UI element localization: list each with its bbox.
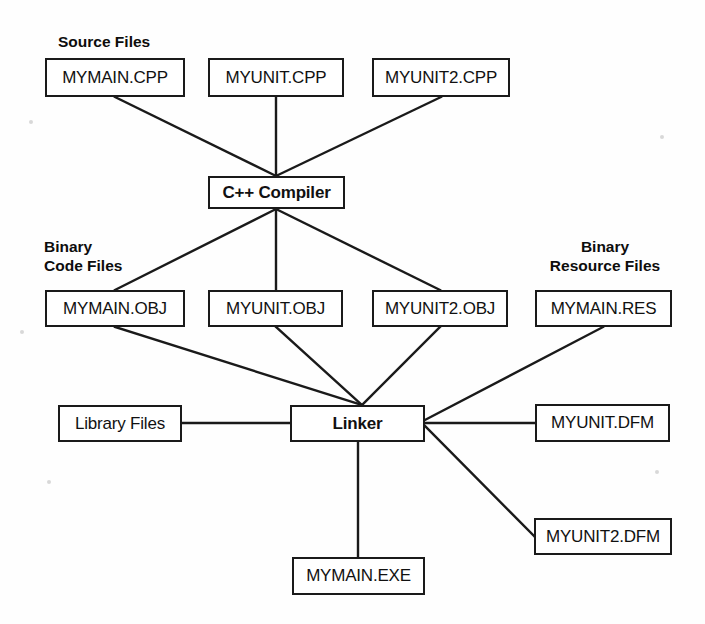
- node-label-myunit2-obj: MYUNIT2.OBJ: [385, 299, 495, 319]
- node-myunit-obj[interactable]: MYUNIT.OBJ: [208, 290, 343, 327]
- caption-binary-code-files: Binary Code Files: [44, 237, 164, 275]
- caption-source-files: Source Files: [58, 32, 208, 51]
- node-label-myunit-dfm: MYUNIT.DFM: [551, 413, 654, 433]
- node-label-mymain-exe: MYMAIN.EXE: [306, 566, 411, 586]
- scan-speck-0: [29, 120, 33, 124]
- node-linker[interactable]: Linker: [290, 405, 425, 442]
- node-myunit2-cpp[interactable]: MYUNIT2.CPP: [372, 58, 510, 97]
- scan-speck-3: [47, 480, 51, 484]
- node-myunit2-obj[interactable]: MYUNIT2.OBJ: [372, 290, 508, 327]
- scan-speck-2: [20, 330, 24, 334]
- caption-binary-resource-files: Binary Resource Files: [520, 237, 690, 275]
- scan-speck-1: [660, 135, 664, 139]
- node-label-library-files: Library Files: [75, 414, 165, 434]
- node-cpp-compiler[interactable]: C++ Compiler: [208, 176, 345, 209]
- node-mymain-res[interactable]: MYMAIN.RES: [535, 290, 672, 327]
- node-myunit-cpp[interactable]: MYUNIT.CPP: [208, 58, 344, 97]
- node-label-myunit-obj: MYUNIT.OBJ: [226, 299, 325, 319]
- node-myunit-dfm[interactable]: MYUNIT.DFM: [535, 404, 670, 442]
- edge-mymain-obj-to-linker: [115, 327, 362, 405]
- node-label-myunit-cpp: MYUNIT.CPP: [226, 68, 327, 88]
- node-label-mymain-res: MYMAIN.RES: [551, 299, 657, 319]
- diagram-canvas: Source FilesBinary Code FilesBinary Reso…: [0, 0, 705, 624]
- node-label-myunit2-dfm: MYUNIT2.DFM: [546, 527, 660, 547]
- node-label-mymain-obj: MYMAIN.OBJ: [63, 299, 167, 319]
- node-label-myunit2-cpp: MYUNIT2.CPP: [385, 68, 497, 88]
- edge-myunit2-obj-to-linker: [362, 327, 440, 405]
- node-mymain-cpp[interactable]: MYMAIN.CPP: [45, 58, 185, 97]
- node-label-linker: Linker: [333, 414, 383, 434]
- edge-mymain-cpp-to-compiler: [115, 97, 276, 176]
- node-label-mymain-cpp: MYMAIN.CPP: [62, 68, 168, 88]
- edge-compiler-to-myunit2-obj: [276, 209, 440, 290]
- node-mymain-exe[interactable]: MYMAIN.EXE: [292, 557, 425, 595]
- scan-speck-4: [655, 470, 659, 474]
- edge-myunit2-dfm-to-linker: [425, 426, 534, 536]
- node-myunit2-dfm[interactable]: MYUNIT2.DFM: [534, 518, 672, 555]
- edge-myunit-obj-to-linker: [276, 327, 362, 405]
- node-mymain-obj[interactable]: MYMAIN.OBJ: [45, 290, 185, 327]
- node-library-files[interactable]: Library Files: [58, 405, 182, 442]
- edge-myunit2-cpp-to-compiler: [276, 97, 441, 176]
- node-label-cpp-compiler: C++ Compiler: [222, 183, 330, 203]
